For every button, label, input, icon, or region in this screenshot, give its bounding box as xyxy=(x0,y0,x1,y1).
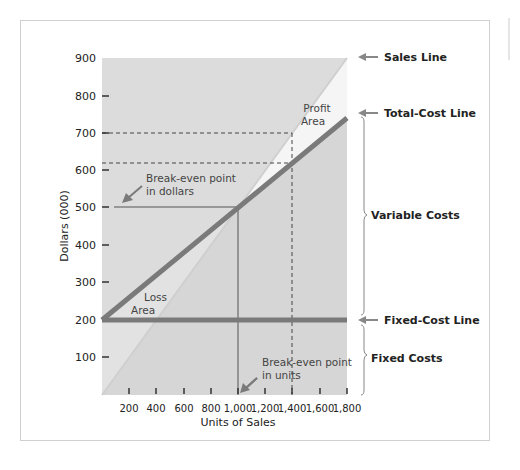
variable-costs-label: Variable Costs xyxy=(371,209,460,222)
x-tick-400: 400 xyxy=(146,403,165,414)
x-axis-title: Units of Sales xyxy=(201,416,276,429)
y-tick-300: 300 xyxy=(75,276,96,289)
bracket-fixed-costs xyxy=(361,325,367,395)
x-tick-1200: 1,200 xyxy=(251,403,280,414)
y-tick-500: 500 xyxy=(75,201,96,214)
right-labels: Sales Line Total-Cost Line Variable Cost… xyxy=(371,51,480,365)
profit-label-1: Profit xyxy=(303,102,330,114)
be-units-label-1: Break-even point xyxy=(262,356,352,368)
y-tick-800: 800 xyxy=(75,90,96,103)
fixed-cost-line-label: Fixed-Cost Line xyxy=(384,314,480,327)
x-tick-800: 800 xyxy=(201,403,220,414)
y-tick-400: 400 xyxy=(75,239,96,252)
arrow-icon-fixed-cost xyxy=(358,316,378,324)
y-tick-100: 100 xyxy=(75,351,96,364)
x-tick-labels: 200 400 600 800 1,000 1,200 1,400 1,600 … xyxy=(119,403,361,414)
loss-label-2: Area xyxy=(131,304,155,316)
y-tick-labels: 900 800 700 600 500 400 300 200 100 xyxy=(75,52,96,364)
bracket-variable-costs xyxy=(361,117,367,315)
loss-label-1: Loss xyxy=(144,291,167,303)
y-tick-700: 700 xyxy=(75,127,96,140)
y-tick-200: 200 xyxy=(75,314,96,327)
x-tick-600: 600 xyxy=(174,403,193,414)
arrow-icon-total-cost xyxy=(358,109,378,117)
y-tick-600: 600 xyxy=(75,164,96,177)
be-units-label-2: in units xyxy=(262,369,301,381)
y-tick-900: 900 xyxy=(75,52,96,65)
x-tick-1000: 1,000 xyxy=(224,403,253,414)
x-tick-1800: 1,800 xyxy=(333,403,362,414)
sales-line-label: Sales Line xyxy=(384,51,447,64)
profit-label-2: Area xyxy=(301,115,325,127)
fixed-costs-label: Fixed Costs xyxy=(371,352,443,365)
y-axis-title: Dollars (000) xyxy=(58,190,71,261)
x-tick-1600: 1,600 xyxy=(306,403,335,414)
be-dollars-label-2: in dollars xyxy=(146,185,194,197)
break-even-chart: 900 800 700 600 500 400 300 200 100 200 … xyxy=(0,0,520,470)
be-dollars-label-1: Break-even point xyxy=(146,172,236,184)
arrow-icon-sales-line xyxy=(358,53,378,61)
x-tick-1400: 1,400 xyxy=(278,403,307,414)
x-tick-200: 200 xyxy=(119,403,138,414)
total-cost-line-label: Total-Cost Line xyxy=(384,107,476,120)
